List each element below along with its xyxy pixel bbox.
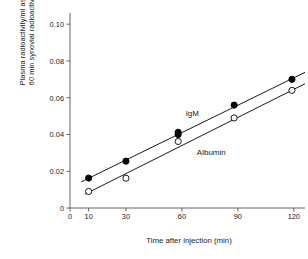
data-point-igm (289, 76, 295, 82)
data-point-albumin (289, 87, 295, 93)
regression-line-albumin (85, 84, 305, 194)
series-label-igm: IgM (186, 109, 199, 118)
data-point-igm (175, 129, 181, 135)
data-point-albumin (175, 138, 181, 144)
data-point-albumin (231, 115, 237, 121)
data-point-igm (231, 102, 237, 108)
series-label-albumin: Albumin (197, 148, 226, 157)
data-point-albumin (123, 175, 129, 181)
data-point-igm (86, 175, 92, 181)
data-point-albumin (86, 188, 92, 194)
plot-canvas (0, 0, 308, 259)
chart-figure: Plasma radioactivity/ml as % of 60 min s… (0, 0, 308, 259)
regression-line-igm (81, 72, 305, 182)
data-point-igm (123, 158, 129, 164)
